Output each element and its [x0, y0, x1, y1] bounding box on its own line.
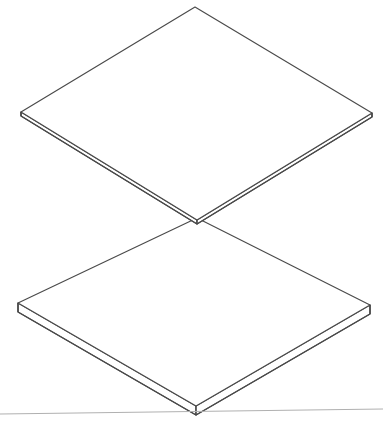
technical-drawing-canvas	[0, 0, 383, 424]
plate-assembly-svg	[0, 0, 383, 424]
